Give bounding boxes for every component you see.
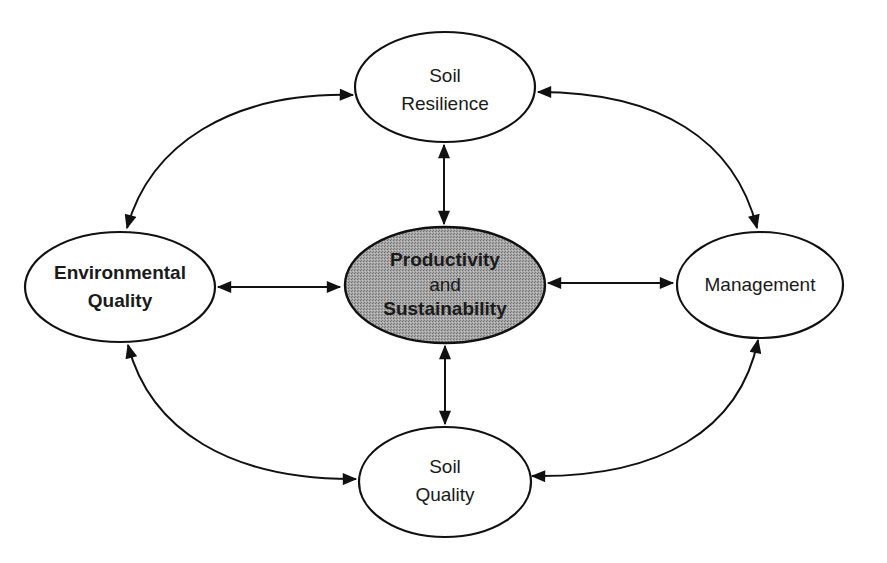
- node-soil-quality-shape: [359, 427, 531, 537]
- node-management-shape: [677, 232, 843, 338]
- arrow-environmental-soil-quality: [128, 345, 356, 479]
- node-soil-resilience-shape: [355, 32, 535, 142]
- node-productivity-sustainability-shape: [345, 227, 545, 343]
- diagram-graphics: [0, 0, 887, 563]
- arrow-resilience-environmental: [127, 95, 353, 228]
- diagram-canvas: Soil Resilience Environmental Quality Pr…: [0, 0, 887, 563]
- arrow-management-soil-quality: [532, 340, 758, 476]
- arrow-resilience-management: [538, 92, 757, 228]
- node-environmental-quality-shape: [25, 232, 215, 342]
